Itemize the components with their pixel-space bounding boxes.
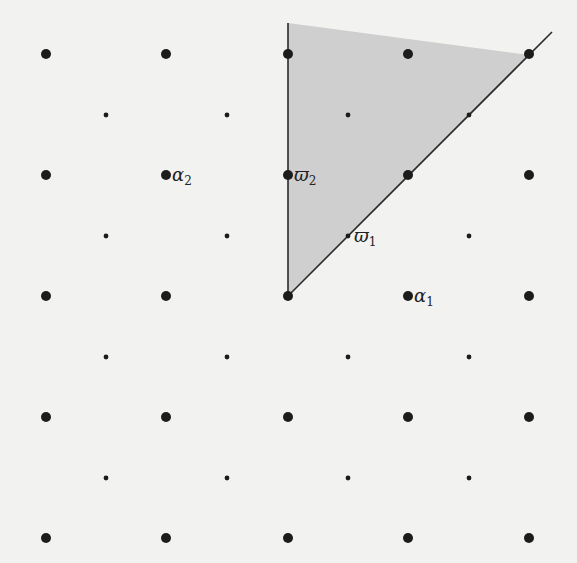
label-varpi1: ϖ1	[354, 225, 376, 249]
weight-lattice-dot	[467, 355, 472, 360]
root-lattice-dot	[283, 49, 293, 59]
weight-lattice-dot	[346, 476, 351, 481]
root-lattice-dot	[524, 533, 534, 543]
weight-lattice-dot	[467, 113, 472, 118]
root-lattice-dot	[161, 49, 171, 59]
weight-lattice-dot	[225, 234, 230, 239]
weight-lattice-dot	[225, 113, 230, 118]
root-lattice-dot	[41, 412, 51, 422]
root-lattice-dot	[41, 170, 51, 180]
weight-lattice-dot	[467, 476, 472, 481]
root-lattice-dot	[403, 533, 413, 543]
weight-lattice-dot	[104, 476, 109, 481]
root-lattice-dot	[41, 533, 51, 543]
root-lattice-dot	[161, 412, 171, 422]
lattice-diagram: α2ϖ2ϖ1α1	[0, 0, 577, 563]
weight-lattice-dot	[346, 355, 351, 360]
weight-lattice-dot	[104, 234, 109, 239]
root-lattice-dot	[283, 291, 293, 301]
root-lattice-dot	[41, 49, 51, 59]
weight-lattice-dot	[346, 234, 351, 239]
weight-lattice-dot	[225, 355, 230, 360]
weight-lattice-dot	[225, 476, 230, 481]
root-lattice-dot	[161, 170, 171, 180]
root-lattice-dot	[41, 291, 51, 301]
label-alpha2: α2	[172, 164, 192, 188]
root-lattice-dot	[524, 49, 534, 59]
lattice-figure: α2ϖ2ϖ1α1	[0, 0, 577, 563]
label-alpha1: α1	[414, 285, 434, 309]
root-lattice-dot	[524, 291, 534, 301]
root-lattice-dot	[403, 170, 413, 180]
weight-lattice-dot	[467, 234, 472, 239]
root-lattice-dot	[283, 533, 293, 543]
fundamental-chamber-shading	[288, 23, 529, 296]
weight-lattice-dot	[104, 355, 109, 360]
weight-lattice-dot	[346, 113, 351, 118]
weight-lattice-dot	[104, 113, 109, 118]
root-lattice-dot	[161, 291, 171, 301]
root-lattice-dot	[403, 291, 413, 301]
root-lattice-dot	[403, 49, 413, 59]
root-lattice-dot	[283, 412, 293, 422]
root-lattice-dot	[524, 170, 534, 180]
root-lattice-dot	[283, 170, 293, 180]
root-lattice-dot	[161, 533, 171, 543]
root-lattice-dot	[524, 412, 534, 422]
root-lattice-dot	[403, 412, 413, 422]
